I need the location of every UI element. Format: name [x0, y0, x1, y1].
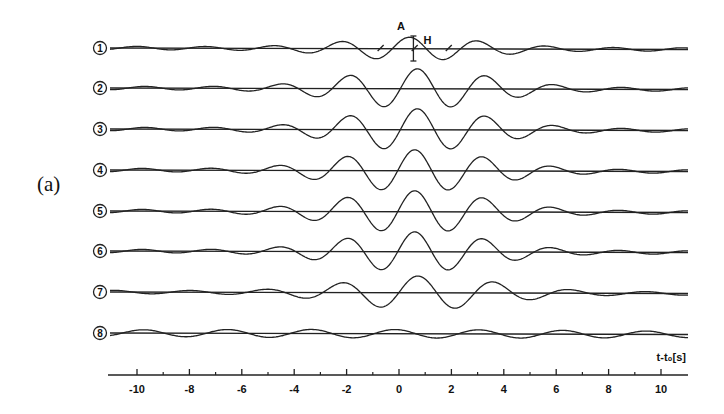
- trace-number-badge: 6: [94, 245, 107, 258]
- zero-crossing-tick: [446, 45, 452, 51]
- baseline: [110, 333, 688, 335]
- waveform: [110, 109, 688, 149]
- zero-crossing-tick: [412, 45, 418, 51]
- waveform: [110, 69, 688, 107]
- traces-group: 12345678: [94, 37, 689, 339]
- waveform: [110, 232, 688, 270]
- trace-1: 1: [94, 37, 689, 59]
- trace-7: 7: [94, 276, 689, 308]
- annotation-h: H: [423, 34, 431, 46]
- trace-2: 2: [94, 69, 689, 107]
- trace-number: 4: [97, 165, 103, 176]
- tick-label: 2: [448, 383, 454, 395]
- trace-number: 8: [97, 328, 103, 339]
- trace-number-badge: 7: [94, 286, 107, 299]
- trace-number-badge: 5: [94, 205, 107, 218]
- trace-number: 3: [97, 124, 103, 135]
- annotation-a: A: [397, 20, 405, 32]
- annotations-group: AH: [378, 20, 452, 61]
- waveform: [110, 191, 688, 231]
- trace-4: 4: [94, 150, 689, 190]
- tick-label: -2: [342, 383, 352, 395]
- trace-number: 2: [97, 83, 103, 94]
- x-axis-label: t-t₀[s]: [657, 351, 687, 363]
- trace-8: 8: [94, 327, 689, 340]
- tick-label: -8: [185, 383, 195, 395]
- trace-number-badge: 2: [94, 82, 107, 95]
- waveform: [110, 150, 688, 190]
- trace-number-badge: 8: [94, 327, 107, 340]
- tick-label: 6: [553, 383, 559, 395]
- x-axis: -10-8-6-4-20246810t-t₀[s]: [108, 351, 688, 395]
- trace-number: 7: [97, 287, 103, 298]
- tick-label: 10: [655, 383, 667, 395]
- trace-number-badge: 4: [94, 164, 107, 177]
- tick-label: 0: [396, 383, 402, 395]
- trace-number: 1: [97, 43, 103, 54]
- trace-5: 5: [94, 191, 689, 231]
- trace-number: 5: [97, 206, 103, 217]
- tick-label: -4: [289, 383, 300, 395]
- tick-label: -6: [237, 383, 247, 395]
- trace-number-badge: 3: [94, 123, 107, 136]
- tick-label: 4: [501, 383, 508, 395]
- trace-6: 6: [94, 232, 689, 270]
- tick-label: 8: [606, 383, 612, 395]
- trace-number-badge: 1: [94, 42, 107, 55]
- wave-packet-chart: 12345678 AH -10-8-6-4-20246810t-t₀[s]: [0, 0, 724, 414]
- trace-3: 3: [94, 109, 689, 149]
- trace-number: 6: [97, 246, 103, 257]
- tick-label: -10: [129, 383, 145, 395]
